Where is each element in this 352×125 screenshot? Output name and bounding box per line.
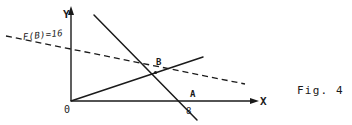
x-axis-arrowhead	[250, 98, 259, 104]
constraint-line-steep	[94, 15, 197, 120]
x-axis-tick-label-8: 8	[186, 107, 192, 116]
x-axis	[71, 98, 259, 104]
constraint-line-shallow	[71, 57, 203, 101]
objective-function-dashed-line	[6, 36, 245, 84]
point-b-label: B	[156, 58, 162, 67]
origin-label: 0	[64, 105, 70, 115]
y-axis-label: Y	[63, 9, 70, 20]
figure-caption: Fig. 4	[297, 85, 344, 96]
linear-programming-plot	[0, 0, 352, 125]
x-axis-label: X	[260, 96, 267, 107]
figure-4-diagram: Y X 0 B A 8 F(B)=16 Fig. 4	[0, 0, 352, 125]
point-a-label: A	[190, 90, 196, 99]
intersection-point-b-marker	[154, 71, 157, 74]
